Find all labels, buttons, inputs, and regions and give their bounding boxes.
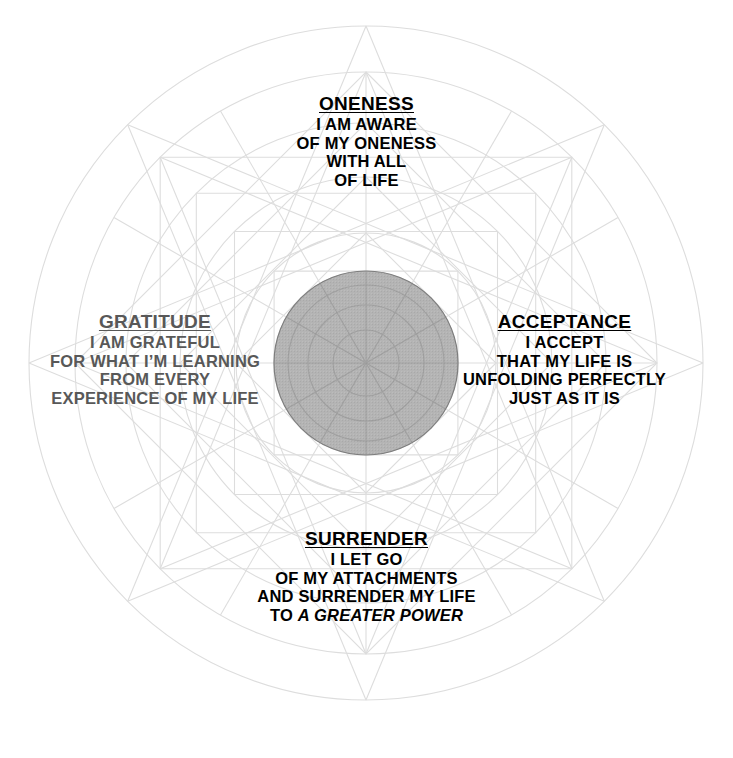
affirmation-line: FOR WHAT I’M LEARNING <box>0 352 310 370</box>
affirmation-line: OF MY ATTACHMENTS <box>0 569 733 587</box>
affirmation-block-acceptance: ACCEPTANCE I ACCEPT THAT MY LIFE IS UNFO… <box>396 311 733 407</box>
affirmation-block-gratitude: GRATITUDE I AM GRATEFUL FOR WHAT I’M LEA… <box>0 311 310 407</box>
affirmation-block-oneness: ONENESS I AM AWARE OF MY ONENESS WITH AL… <box>0 93 733 189</box>
affirmation-line: I AM GRATEFUL <box>0 333 310 351</box>
affirmation-title-acceptance: ACCEPTANCE <box>396 311 733 332</box>
affirmation-line: I ACCEPT <box>396 333 733 351</box>
affirmation-line: JUST AS IT IS <box>396 389 733 407</box>
affirmation-line: I AM AWARE <box>0 115 733 133</box>
affirmation-title-oneness: ONENESS <box>0 93 733 114</box>
affirmation-title-gratitude: GRATITUDE <box>0 311 310 332</box>
affirmation-line-italic: A GREATER POWER <box>298 606 463 624</box>
affirmation-line: OF LIFE <box>0 171 733 189</box>
affirmation-line: FROM EVERY <box>0 370 310 388</box>
affirmation-line: AND SURRENDER MY LIFE <box>0 587 733 605</box>
affirmation-line: WITH ALL <box>0 152 733 170</box>
affirmation-line: I LET GO <box>0 550 733 568</box>
affirmation-block-surrender: SURRENDER I LET GO OF MY ATTACHMENTS AND… <box>0 528 733 624</box>
affirmation-line: EXPERIENCE OF MY LIFE <box>0 389 310 407</box>
affirmation-line-emphasis: TO A GREATER POWER <box>0 606 733 624</box>
affirmation-line-prefix: TO <box>270 606 298 624</box>
affirmation-title-surrender: SURRENDER <box>0 528 733 549</box>
mandala-page: ONENESS I AM AWARE OF MY ONENESS WITH AL… <box>0 0 733 758</box>
affirmation-line: UNFOLDING PERFECTLY <box>396 370 733 388</box>
affirmation-line: THAT MY LIFE IS <box>396 352 733 370</box>
affirmation-line: OF MY ONENESS <box>0 134 733 152</box>
